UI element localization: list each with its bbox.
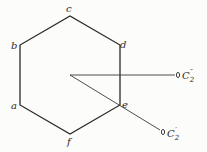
vertex-label-a: a [11, 100, 17, 111]
hexagon-diagram: a b c d e f C2″ C2′ [0, 0, 207, 152]
axis-c2-prime-marker [161, 129, 164, 134]
axis-c2-double-prime-marker [176, 72, 179, 77]
vertex-label-e: e [122, 99, 128, 110]
axis-c2-prime-line [70, 75, 160, 130]
axis-label-c2-double-prime: C2″ [182, 68, 195, 84]
axis-label-c2-prime: C2′ [167, 126, 180, 142]
vertex-label-f: f [66, 136, 73, 147]
vertex-label-d: d [120, 39, 126, 50]
vertex-label-b: b [11, 40, 17, 51]
vertex-label-c: c [66, 3, 72, 14]
